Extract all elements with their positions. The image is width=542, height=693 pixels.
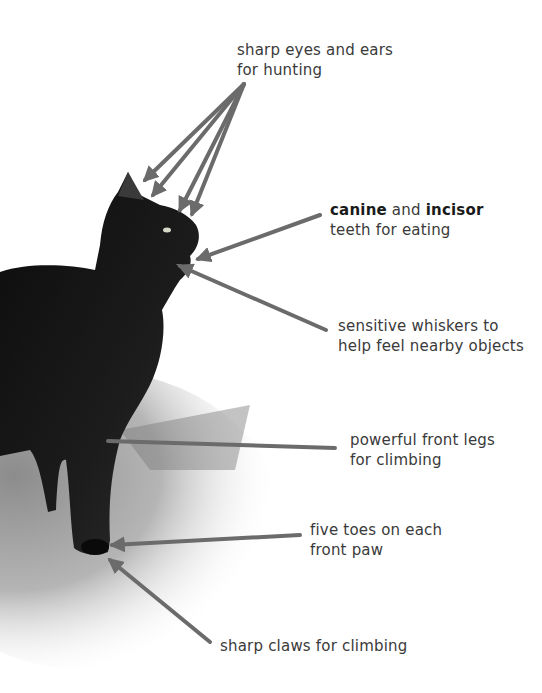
label-legs-line1: powerful front legs [350,430,495,450]
label-teeth-incisor: incisor [426,201,484,219]
arrows-eyes-ears [145,84,244,214]
label-teeth-canine: canine [330,201,387,219]
label-claws: sharp claws for climbing [220,636,408,656]
label-eyes-ears-line2: for hunting [237,60,393,80]
label-toes: five toes on each front paw [310,520,442,560]
label-legs: powerful front legs for climbing [350,430,495,470]
cat-paw [81,539,109,555]
label-teeth-line1: canine and incisor [330,200,484,220]
label-teeth-line2: teeth for eating [330,220,484,240]
label-toes-line2: front paw [310,540,442,560]
label-toes-line1: five toes on each [310,520,442,540]
label-whiskers-line2: help feel nearby objects [338,336,524,356]
arrow-whiskers [180,266,326,330]
label-teeth: canine and incisor teeth for eating [330,200,484,240]
label-whiskers: sensitive whiskers to help feel nearby o… [338,316,524,356]
label-eyes-ears-line1: sharp eyes and ears [237,40,393,60]
cat-eye [163,228,171,233]
label-whiskers-line1: sensitive whiskers to [338,316,524,336]
label-teeth-and: and [387,201,426,219]
label-legs-line2: for climbing [350,450,495,470]
label-eyes-ears: sharp eyes and ears for hunting [237,40,393,80]
cat-diagram: sharp eyes and ears for hunting canine a… [0,0,542,693]
arrow-teeth [198,215,320,259]
label-claws-line1: sharp claws for climbing [220,636,408,656]
